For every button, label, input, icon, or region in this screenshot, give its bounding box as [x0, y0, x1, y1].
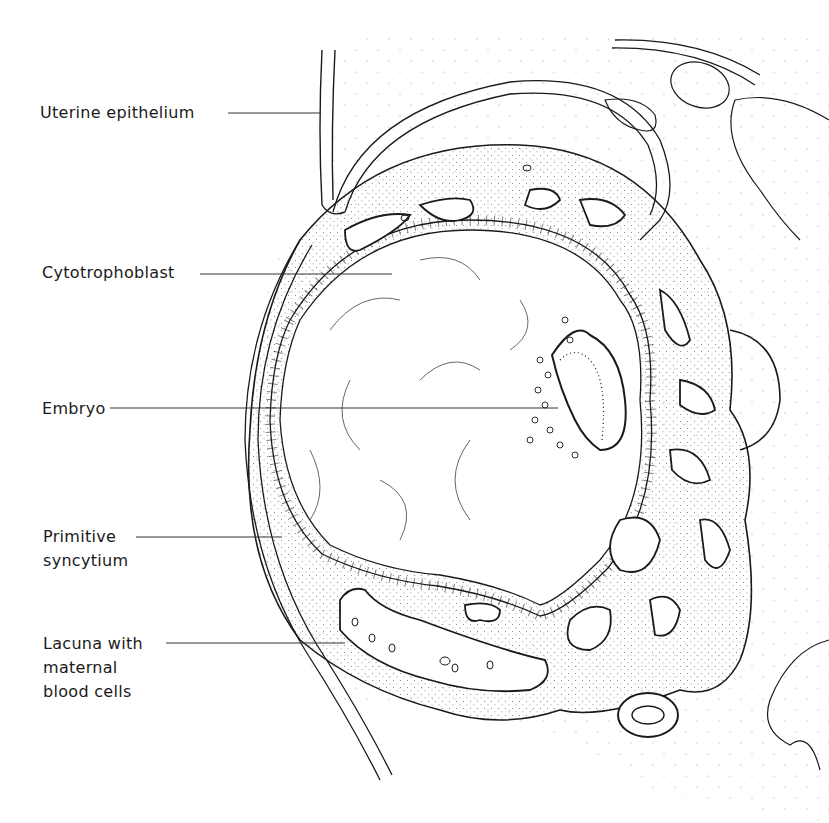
embryo-implantation-diagram: Uterine epithelium Cytotrophoblast Embry…	[0, 0, 829, 823]
uterine-gland	[618, 693, 678, 737]
label-uterine-epithelium: Uterine epithelium	[40, 101, 195, 125]
label-embryo: Embryo	[42, 397, 106, 421]
label-lacuna: Lacuna with maternal blood cells	[43, 632, 143, 704]
label-cytotrophoblast: Cytotrophoblast	[42, 261, 175, 285]
label-primitive-syncytium: Primitive syncytium	[43, 525, 128, 573]
